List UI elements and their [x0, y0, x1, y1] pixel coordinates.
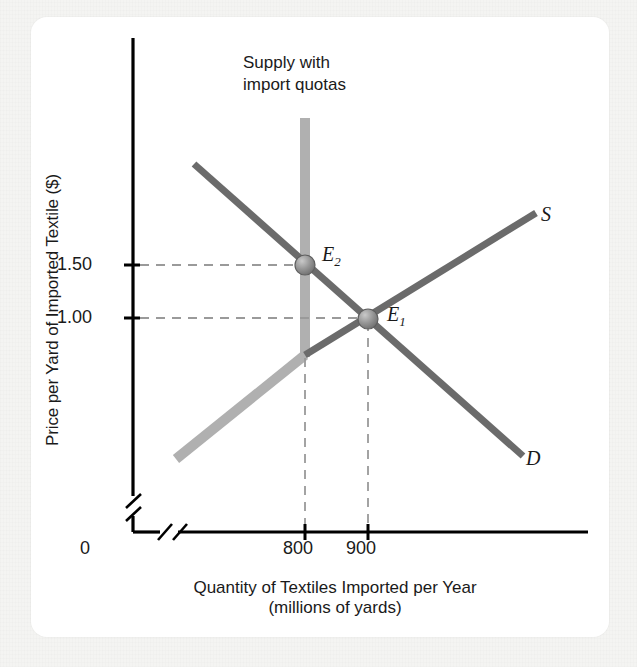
equilibrium-label-E2: E2 [322, 243, 341, 269]
demand-curve [194, 164, 523, 456]
supply-curve-label: S [541, 203, 551, 227]
quota-supply-upward-segment [176, 355, 305, 459]
equilibrium-label-E1-sub: 1 [399, 314, 406, 329]
figure-screenshot: Price per Yard of Imported Textile ($) Q… [0, 0, 637, 667]
y-axis-break-mark-1 [126, 494, 141, 508]
equilibrium-label-E2-base: E [322, 243, 334, 265]
supply-curve [305, 213, 536, 355]
y-tick-label-150: 1.50 [57, 254, 92, 275]
equilibrium-point-E2 [295, 255, 315, 275]
x-axis-label-line2: (millions of yards) [120, 598, 550, 618]
quota-annotation-line2: import quotas [243, 74, 346, 96]
equilibrium-label-E1-base: E [387, 303, 399, 325]
x-axis-label-line1: Quantity of Textiles Imported per Year [193, 578, 476, 597]
x-axis-break-mark-1 [158, 524, 172, 540]
quota-annotation: Supply with import quotas [243, 52, 346, 96]
equilibrium-point-E1 [358, 309, 378, 329]
x-tick-label-800: 800 [283, 538, 313, 559]
equilibrium-label-E2-sub: 2 [334, 254, 341, 269]
equilibrium-label-E1: E1 [387, 303, 406, 329]
supply-demand-chart [0, 0, 637, 667]
origin-label: 0 [80, 538, 90, 559]
demand-curve-label: D [526, 447, 540, 471]
x-tick-label-900: 900 [346, 538, 376, 559]
x-axis-label: Quantity of Textiles Imported per Year (… [120, 578, 550, 618]
y-tick-label-100: 1.00 [57, 307, 92, 328]
quota-annotation-line1: Supply with [243, 52, 346, 74]
